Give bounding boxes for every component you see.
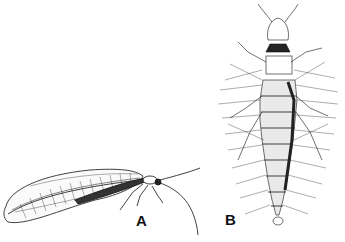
panel-label-a: A (136, 212, 147, 229)
illustration (0, 0, 345, 242)
panel-label-b: B (225, 211, 236, 228)
adult-lacewing (4, 168, 200, 235)
lacewing-larva (218, 4, 338, 225)
